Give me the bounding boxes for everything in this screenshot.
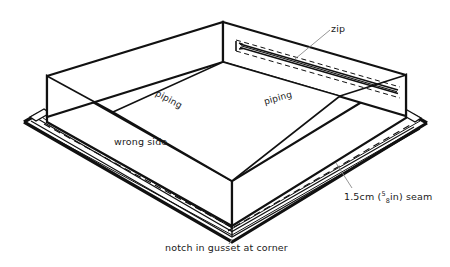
label-wrong-side: wrong side [114,137,167,147]
label-zip: zip [331,24,345,34]
box-cushion-line-drawing [0,0,450,267]
label-notch-in-gusset: notch in gusset at corner [165,243,288,253]
illustration-canvas: zip piping piping wrong side 1.5cm (58in… [0,0,450,267]
label-seam-allowance: 1.5cm (58in) seam [344,192,432,202]
seam-prefix: 1.5cm ( [344,191,381,202]
seam-suffix: in) seam [390,191,432,202]
